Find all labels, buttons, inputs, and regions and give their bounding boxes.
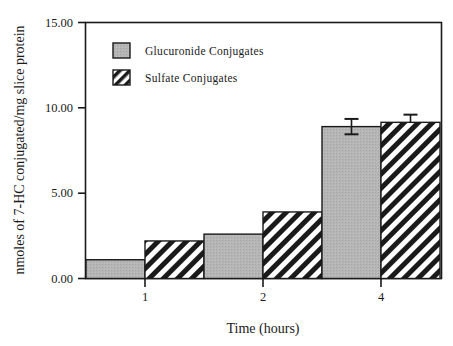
- y-tick-label-5: 5.00: [51, 186, 73, 200]
- x-tick-label-2: 2: [260, 290, 266, 304]
- bar-4-sulfate: [381, 122, 440, 278]
- legend-label-glucuronide: Glucuronide Conjugates: [145, 45, 264, 58]
- legend-label-sulfate: Sulfate Conjugates: [145, 72, 238, 85]
- y-tick-label-10: 10.00: [45, 101, 73, 115]
- y-axis-title: nmoles of 7-HC conjugated/mg slice prote…: [12, 25, 27, 274]
- y-tick-label-15: 15.00: [45, 16, 73, 30]
- bar-2-glucuronide: [204, 234, 263, 278]
- legend-swatch-glucuronide: [113, 43, 130, 58]
- legend-swatch-sulfate: [113, 70, 130, 85]
- x-tick-label-1: 1: [142, 290, 148, 304]
- y-tick-label-0: 0.00: [51, 272, 73, 286]
- bar-1-glucuronide: [86, 260, 145, 279]
- bar-1-sulfate: [145, 241, 204, 279]
- chart-svg: 15.00 10.00 5.00 0.00 nmoles of 7-HC con…: [0, 0, 453, 346]
- bar-4-glucuronide: [322, 127, 381, 279]
- bar-2-sulfate: [263, 212, 322, 279]
- x-axis-title: Time (hours): [227, 321, 300, 337]
- bar-chart-figure: 15.00 10.00 5.00 0.00 nmoles of 7-HC con…: [0, 0, 453, 346]
- x-tick-label-4: 4: [378, 290, 385, 304]
